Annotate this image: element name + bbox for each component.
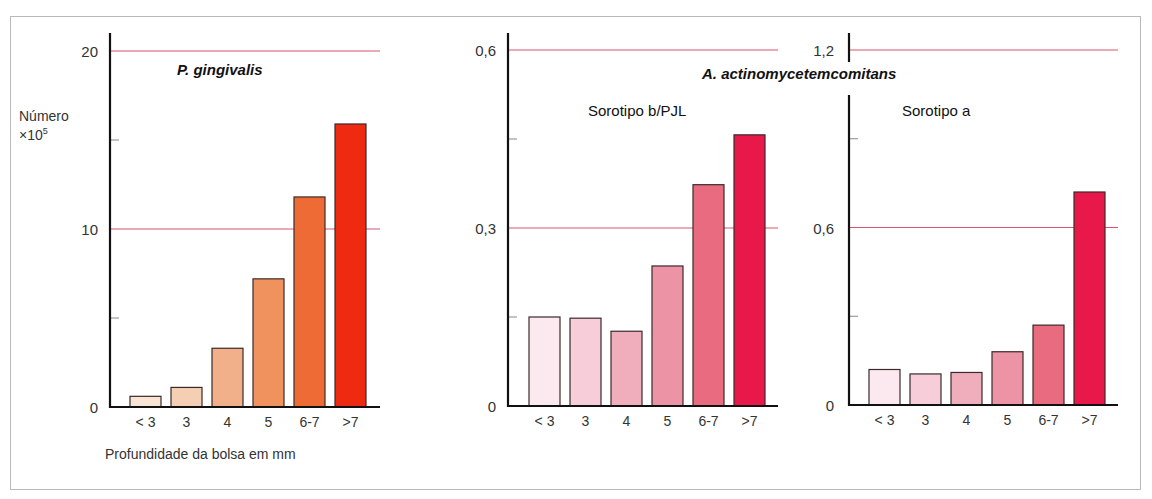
y-tick-label: 0,3	[475, 220, 496, 237]
bar-3	[869, 370, 900, 406]
y-tick-label: 0	[488, 398, 496, 415]
chart-title: P. gingivalis	[177, 61, 263, 78]
bar-3	[130, 396, 161, 407]
bar-5	[992, 352, 1023, 405]
bar-5	[253, 279, 284, 407]
shared-title: A. actinomycetemcomitans	[701, 65, 896, 82]
y-axis-unit: ×105	[19, 126, 48, 143]
bar-7	[734, 135, 765, 406]
y-tick-label: 0,6	[475, 42, 496, 59]
category-label: 3	[582, 413, 590, 429]
category-label: >7	[343, 414, 359, 430]
y-tick-label: 0,6	[813, 220, 834, 237]
x-axis-label: Profundidade da bolsa em mm	[105, 446, 296, 462]
bar-3	[171, 387, 202, 407]
category-label: 5	[1004, 412, 1012, 428]
bar-67	[1033, 325, 1064, 405]
bar-3	[529, 317, 560, 406]
bar-67	[294, 197, 325, 407]
category-label: < 3	[875, 412, 895, 428]
bar-7	[1074, 192, 1105, 405]
y-tick-label: 0	[90, 399, 98, 416]
y-tick-label: 20	[81, 43, 98, 60]
y-axis-unit-exponent: 5	[43, 126, 48, 136]
category-label: 3	[922, 412, 930, 428]
category-label: 4	[224, 414, 232, 430]
bar-4	[611, 331, 642, 406]
chart-title: Sorotipo b/PJL	[588, 102, 686, 119]
chart-canvas: < 33456-7>701020P. gingivalis< 33456-7>7…	[0, 0, 1152, 499]
bar-5	[652, 266, 683, 406]
category-label: 6-7	[698, 413, 718, 429]
category-label: < 3	[535, 413, 555, 429]
bar-4	[212, 348, 243, 407]
category-label: >7	[742, 413, 758, 429]
chart-title: Sorotipo a	[902, 102, 971, 119]
y-tick-label: 1,2	[813, 42, 834, 59]
category-label: 6-7	[299, 414, 319, 430]
y-tick-label: 10	[81, 221, 98, 238]
bar-4	[951, 372, 982, 405]
y-axis-label: Número	[19, 108, 69, 124]
chart-panel-3: < 33456-7>700,61,2Sorotipo a	[813, 33, 1118, 428]
category-label: >7	[1082, 412, 1098, 428]
category-label: < 3	[136, 414, 156, 430]
bar-3	[570, 318, 601, 406]
category-label: 5	[265, 414, 273, 430]
category-label: 4	[623, 413, 631, 429]
bar-67	[693, 185, 724, 406]
category-label: 5	[664, 413, 672, 429]
category-label: 4	[963, 412, 971, 428]
category-label: 6-7	[1038, 412, 1058, 428]
category-label: 3	[183, 414, 191, 430]
y-axis-unit-base: ×10	[19, 127, 43, 143]
bar-3	[910, 374, 941, 405]
chart-panel-1: < 33456-7>701020P. gingivalis	[81, 33, 380, 430]
chart-panel-2: < 33456-7>700,30,6Sorotipo b/PJL	[475, 33, 778, 429]
bar-7	[335, 124, 366, 407]
y-tick-label: 0	[826, 397, 834, 414]
